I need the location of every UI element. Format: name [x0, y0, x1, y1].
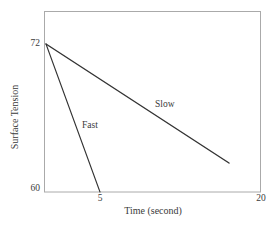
series-line-slow — [46, 44, 229, 163]
x-axis-tick-label-right: 20 — [250, 194, 272, 204]
surface-tension-chart: 72 60 5 20 Time (second) Surface Tension… — [0, 0, 279, 230]
series-annotation-fast: Fast — [82, 121, 98, 131]
series-line-fast — [46, 44, 100, 192]
x-axis-title: Time (second) — [44, 206, 262, 216]
y-axis-tick-label-top: 72 — [24, 39, 40, 49]
x-axis-tick-label-mid: 5 — [90, 194, 110, 204]
plot-frame — [45, 12, 261, 193]
plot-area — [0, 0, 279, 230]
y-axis-tick-label-bottom: 60 — [24, 184, 40, 194]
y-axis-title: Surface Tension — [10, 57, 20, 177]
series-annotation-slow: Slow — [155, 100, 175, 110]
